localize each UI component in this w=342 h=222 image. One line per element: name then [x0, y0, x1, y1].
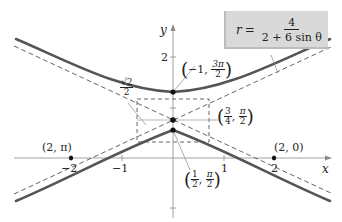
center-point: [170, 117, 176, 123]
equation-box: r = 4 2 + 6 sin θ: [224, 11, 328, 49]
x-tick-neg1: −1: [112, 163, 128, 174]
y-axis-label: y: [160, 24, 167, 36]
left-intercept-label: (2, π): [42, 142, 72, 153]
x-tick-2: 2: [271, 163, 278, 174]
right-x-intercept-point: [272, 156, 276, 160]
x-tick-1: 1: [221, 163, 228, 174]
bottom-vertex-label: (12, π2): [184, 170, 221, 189]
center-label: (34, π2): [217, 107, 254, 126]
equation-lhs: r: [236, 23, 242, 37]
top-vertex-label: (−1, 3π2): [181, 60, 232, 79]
top-vertex-point: [170, 89, 175, 94]
x-axis-arrow-icon: [325, 156, 332, 161]
half-width-label: √22: [120, 78, 133, 97]
bottom-vertex-point: [170, 127, 175, 132]
equation-numerator: 4: [284, 17, 299, 30]
x-tick-neg2: −2: [61, 163, 77, 174]
right-intercept-label: (2, 0): [274, 142, 304, 153]
y-tick-2: 2: [161, 52, 168, 63]
equation: r = 4 2 + 6 sin θ: [236, 17, 323, 43]
left-x-intercept-point: [69, 156, 73, 160]
equation-equals: =: [245, 23, 255, 37]
equation-denominator: 2 + 6 sin θ: [261, 30, 323, 43]
y-axis-arrow-icon: [171, 24, 176, 31]
x-axis-label: x: [322, 163, 329, 175]
